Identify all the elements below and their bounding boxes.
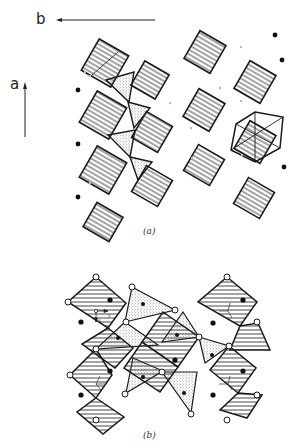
panel-a xyxy=(23,18,286,242)
local-axis-x-label: x xyxy=(98,318,101,323)
structure-drawing xyxy=(0,0,303,448)
panel-b xyxy=(65,274,270,434)
axis-a-arrow-icon xyxy=(23,82,27,137)
crystal-structure-figure: b a (a) (b) y x xyxy=(0,0,303,448)
local-axis-y-label: y xyxy=(108,313,111,318)
axis-b-label: b xyxy=(36,12,46,27)
caption-panel-a: (a) xyxy=(143,227,155,236)
octahedra-chain-middle-right xyxy=(183,31,226,186)
axis-a-label: a xyxy=(10,77,19,92)
caption-panel-b: (b) xyxy=(143,431,156,440)
octahedra-left-b xyxy=(68,277,133,434)
octahedra-chain-middle-left xyxy=(131,61,173,207)
axis-b-arrow-icon xyxy=(56,18,155,22)
